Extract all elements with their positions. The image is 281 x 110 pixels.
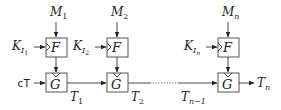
m1-label: M1 (49, 5, 67, 21)
fn-label: F (222, 40, 233, 55)
k2-label: KI2 (72, 39, 89, 56)
f1-label: F (50, 40, 61, 55)
cascade-diagram: M1 KI1 F G cT T1 M2 KI2 F G T2 Mn KIn (0, 0, 281, 110)
tn-1-label: Tn−1 (181, 90, 206, 106)
stage-n: Mn KIn F Tn−1 G Tn (178, 5, 270, 106)
stage-2: M2 KI2 F G T2 (72, 5, 178, 106)
m2-label: M2 (110, 5, 128, 21)
g1-label: G (50, 77, 60, 92)
g2-label: G (111, 77, 121, 92)
gn-label: G (222, 77, 232, 92)
f2-label: F (111, 40, 122, 55)
diagram-canvas: M1 KI1 F G cT T1 M2 KI2 F G T2 Mn KIn (0, 0, 281, 110)
ct-input-label: cT (17, 77, 31, 90)
mn-label: Mn (221, 5, 239, 21)
t1-label: T1 (70, 90, 83, 106)
kn-label: KIn (183, 39, 200, 56)
k1-label: KI1 (11, 39, 28, 56)
tn-label: Tn (257, 76, 270, 92)
stage-1: M1 KI1 F G cT T1 (11, 5, 106, 106)
t2-label: T2 (131, 90, 144, 106)
